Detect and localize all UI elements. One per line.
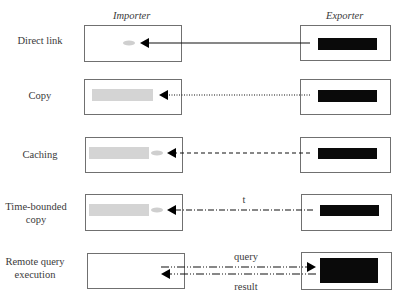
importer-pointer [123,41,135,46]
arrowhead-icon [159,90,168,100]
importer-copy-block [92,89,153,101]
arrowhead-icon [307,262,316,272]
arrowhead-icon [167,148,176,158]
query-annotation: query [226,250,266,263]
arrowhead-icon [161,269,170,279]
time-bound-annotation: t [239,193,249,206]
importer-cache-block [89,147,149,159]
importer-copy-block [89,204,149,216]
importer-pointer [151,151,163,156]
diagram-canvas [0,0,404,301]
importer-pointer [151,208,163,213]
arrowhead-icon [140,38,149,48]
exporter-data-block [318,148,377,159]
exporter-data-block [318,90,377,102]
arrowhead-icon [167,205,176,215]
result-annotation: result [226,280,266,293]
exporter-data-block [320,258,378,283]
exporter-data-block [320,205,379,216]
exporter-data-block [318,38,377,50]
